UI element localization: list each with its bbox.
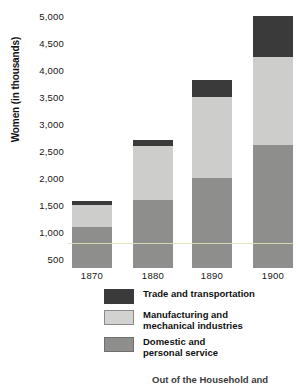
bar-segment-manufacturing-1900	[253, 57, 293, 145]
bar-segment-trade-1890	[192, 80, 232, 97]
bar-segment-manufacturing-1870	[72, 205, 112, 227]
legend-label-manufacturing-line1: Manufacturing and	[143, 309, 228, 320]
legend-swatch-trade-icon	[104, 289, 134, 304]
legend-swatch-manufacturing-icon	[104, 310, 134, 325]
y-tick-4500: 4,500	[14, 38, 64, 49]
x-tick-1870: 1870	[66, 270, 118, 281]
legend-item-domestic: Domestic and personal service	[104, 336, 298, 358]
legend-swatch-domestic-icon	[104, 337, 134, 352]
clipped-caption-text: Out of the Household and	[152, 374, 298, 385]
legend-label-domestic-line2: personal service	[143, 347, 218, 358]
x-tick-1890: 1890	[186, 270, 238, 281]
bar-segment-domestic-1870	[72, 227, 112, 268]
x-axis-tick-labels: 1870 1880 1890 1900	[68, 270, 294, 286]
y-tick-2500: 2,500	[14, 146, 64, 157]
x-tick-1900: 1900	[247, 270, 299, 281]
chart-legend: Trade and transportation Manufacturing a…	[104, 288, 298, 363]
y-tick-4000: 4,000	[14, 65, 64, 76]
y-tick-3500: 3,500	[14, 92, 64, 103]
y-tick-1500: 1,500	[14, 200, 64, 211]
x-tick-1880: 1880	[127, 270, 179, 281]
stacked-bar-1870	[72, 201, 112, 268]
legend-label-manufacturing-line2: mechanical industries	[143, 320, 243, 331]
legend-label-manufacturing: Manufacturing and mechanical industries	[143, 309, 243, 331]
y-tick-2000: 2,000	[14, 173, 64, 184]
legend-item-manufacturing: Manufacturing and mechanical industries	[104, 309, 298, 331]
legend-label-trade-line1: Trade and transportation	[143, 288, 255, 299]
stacked-bar-1900	[253, 16, 293, 268]
clipped-caption: Out of the Household and	[152, 374, 298, 386]
plot-area	[68, 8, 294, 268]
bar-segment-domestic-1900	[253, 145, 293, 268]
legend-label-trade: Trade and transportation	[143, 288, 255, 299]
bar-segment-trade-1900	[253, 16, 293, 57]
y-tick-3000: 3,000	[14, 119, 64, 130]
bar-segment-domestic-1880	[133, 200, 173, 268]
legend-item-trade: Trade and transportation	[104, 288, 298, 304]
y-axis-tick-labels: 5,000 4,500 4,000 3,500 3,000 2,500 2,00…	[14, 0, 64, 285]
legend-label-domestic-line1: Domestic and	[143, 336, 205, 347]
y-tick-1000: 1,000	[14, 227, 64, 238]
stacked-bar-1890	[192, 80, 232, 268]
bar-segment-domestic-1890	[192, 178, 232, 268]
bar-segment-manufacturing-1880	[133, 146, 173, 200]
y-tick-500: 500	[14, 254, 64, 265]
stacked-bar-1880	[133, 140, 173, 268]
y-tick-5000: 5,000	[14, 11, 64, 22]
legend-label-domestic: Domestic and personal service	[143, 336, 218, 358]
bar-segment-manufacturing-1890	[192, 97, 232, 178]
